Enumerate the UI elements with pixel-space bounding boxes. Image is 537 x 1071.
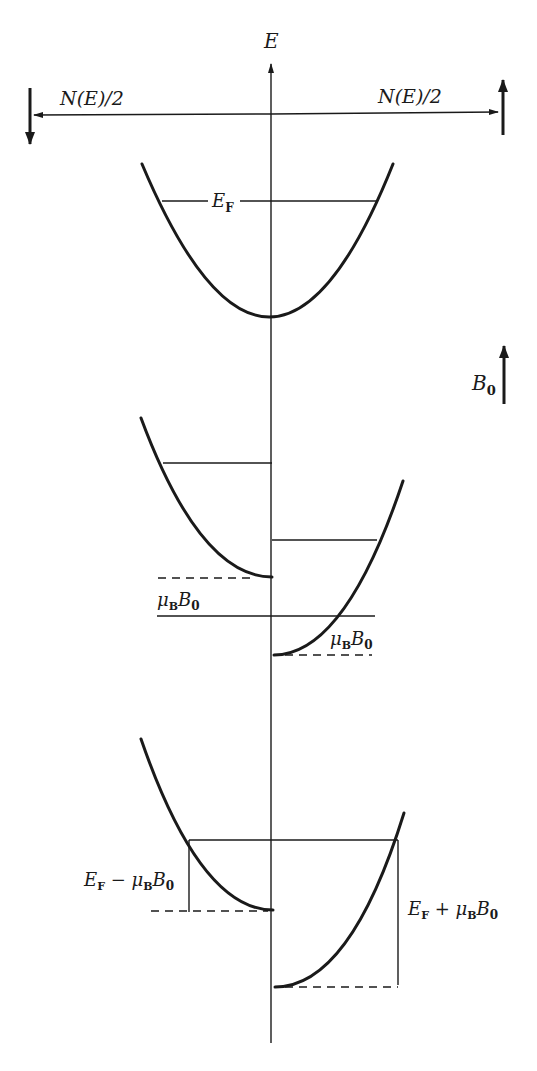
fermi-minus-label: EF − μBB0 bbox=[83, 869, 174, 893]
energy-axis-label: E bbox=[263, 29, 279, 53]
field-label: B0 bbox=[471, 371, 496, 398]
zeeman-label-left: μBB0 bbox=[157, 589, 200, 613]
zeeman-label-right: μBB0 bbox=[330, 628, 373, 652]
dos-axis-left bbox=[34, 114, 271, 115]
dos-diagram: E N(E)/2 N(E)/2 B0 EF μBB0 μBB0 EF − μBB… bbox=[0, 0, 537, 1071]
dos-label-right: N(E)/2 bbox=[377, 85, 442, 107]
spin-down-band bbox=[141, 418, 272, 577]
dos-label-left: N(E)/2 bbox=[59, 87, 124, 109]
dos-axis-right bbox=[271, 112, 498, 114]
spin-up-band-eq bbox=[275, 813, 404, 987]
fermi-plus-label: EF + μBB0 bbox=[407, 898, 498, 922]
fermi-level-label: EF bbox=[211, 190, 234, 215]
band-zero-field bbox=[142, 164, 393, 317]
